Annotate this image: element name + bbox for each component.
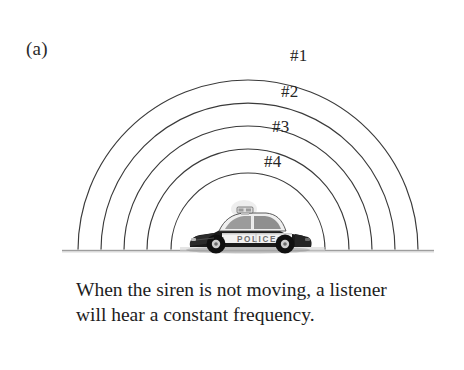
wavefront-label-2: #2	[281, 82, 299, 102]
panel-label: (a)	[26, 38, 48, 60]
wavefront-label-3: #3	[272, 117, 290, 137]
wavefront-label-4: #4	[264, 152, 282, 172]
car-headlight	[191, 238, 196, 241]
figure-caption: When the siren is not moving, a listener…	[76, 277, 448, 327]
caption-line-1: When the siren is not moving, a listener	[76, 277, 448, 302]
car-door-text: POLICE	[237, 235, 277, 244]
car-taillight	[305, 238, 310, 241]
police-car: POLICE	[186, 200, 312, 254]
caption-line-2: will hear a constant frequency.	[76, 302, 448, 327]
wavefront-label-1: #1	[290, 46, 308, 66]
